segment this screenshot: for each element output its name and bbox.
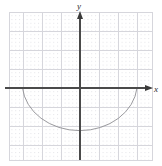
coordinate-plane-svg: y x [0,0,162,166]
y-axis-label: y [76,1,81,11]
minor-grid [9,12,153,160]
graph-figure: y x [0,0,162,166]
x-axis-label: x [153,84,158,94]
